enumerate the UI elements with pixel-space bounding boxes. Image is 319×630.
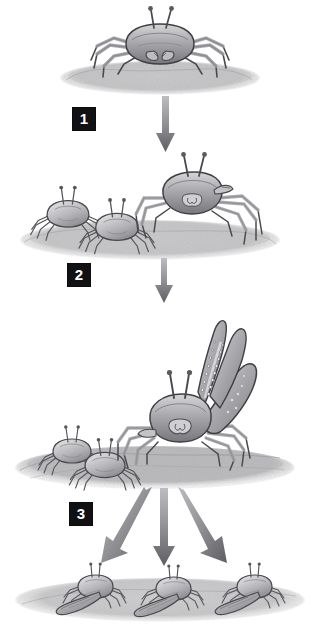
outcome-row-group: [15, 562, 305, 622]
stage-label-1: 1: [73, 108, 95, 130]
stage-2-group: [20, 152, 280, 260]
arrow-stage3-to-outcome-left: [101, 487, 152, 563]
crab-lifecycle-illustration: [0, 0, 319, 630]
arrow-stage3-to-outcome-center: [153, 488, 175, 566]
stage-1-group: [60, 6, 260, 95]
stage-1-ground: [60, 61, 260, 95]
stage-label-2: 2: [68, 264, 90, 286]
arrow-stage2-to-stage3: [155, 258, 173, 303]
illustration-canvas: 1 2 3: [0, 0, 319, 630]
arrow-stage1-to-stage2: [156, 96, 175, 152]
stage-3-group: [15, 321, 295, 491]
arrow-stage3-to-outcome-right: [178, 487, 227, 563]
stage-label-3: 3: [70, 503, 92, 525]
